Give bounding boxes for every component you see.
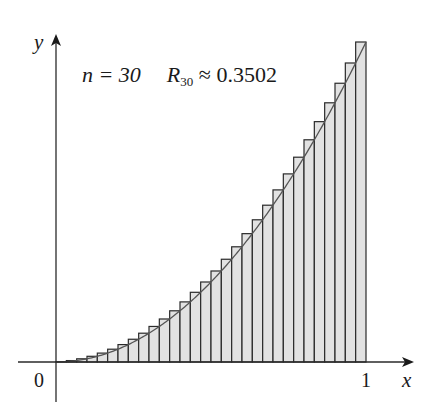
n-equals-text: n = 30	[82, 62, 141, 87]
riemann-bar	[190, 292, 200, 362]
x-tick-0: 0	[34, 369, 44, 392]
riemann-annotation: n = 30R30 ≈ 0.3502	[82, 62, 277, 90]
r-symbol: R	[167, 62, 180, 87]
riemann-bar	[232, 247, 242, 362]
riemann-bar	[211, 271, 221, 362]
riemann-bar	[335, 83, 345, 362]
riemann-bar	[252, 220, 262, 362]
riemann-bar	[314, 122, 324, 362]
riemann-bar	[139, 333, 149, 362]
riemann-bar	[345, 63, 355, 362]
riemann-bar	[263, 205, 273, 362]
riemann-bar	[294, 157, 304, 362]
riemann-bar	[221, 259, 231, 362]
riemann-bar	[242, 234, 252, 362]
x-axis-label: x	[402, 368, 411, 393]
riemann-bar	[283, 174, 293, 362]
riemann-bar	[273, 190, 283, 362]
r-subscript: 30	[180, 74, 193, 89]
riemann-bar	[356, 42, 366, 362]
y-axis-label: y	[34, 30, 43, 55]
x-tick-1: 1	[361, 369, 371, 392]
riemann-bar	[201, 282, 211, 362]
riemann-bars	[56, 42, 366, 362]
riemann-bar	[180, 302, 190, 362]
riemann-bar	[304, 140, 314, 362]
riemann-bar	[325, 103, 335, 362]
r-value-text: ≈ 0.3502	[199, 62, 277, 87]
